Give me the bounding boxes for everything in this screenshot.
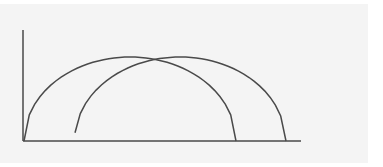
trajectory-arc-2 <box>75 57 286 141</box>
trajectory-diagram <box>0 0 383 167</box>
trajectory-arc-1 <box>24 57 236 141</box>
